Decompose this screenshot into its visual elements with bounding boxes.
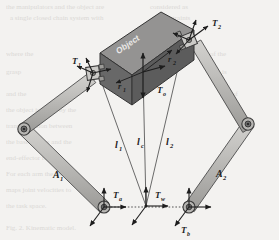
center-world-frame-axes: [132, 187, 168, 225]
svg-text:2: 2: [169, 142, 174, 149]
svg-text:o: o: [163, 91, 166, 97]
svg-text:1: 1: [78, 62, 81, 68]
svg-text:Fig. 2. Kinematic model.: Fig. 2. Kinematic model.: [6, 224, 76, 232]
right-elbow-center: [247, 123, 249, 125]
svg-text:the task space.: the task space.: [6, 202, 47, 210]
label-right-endeffector-frame: T 2: [212, 18, 221, 30]
left-gripper-finger-lower: [99, 76, 105, 81]
label-distance-center: l c: [137, 136, 144, 149]
svg-text:1: 1: [123, 87, 126, 93]
svg-text:the manipulators and the objec: the manipulators and the object are: [6, 3, 104, 11]
label-distance-right: l 2: [166, 136, 174, 149]
svg-text:grasp: grasp: [6, 68, 22, 76]
diagram-canvas: the manipulators and the object are cons…: [0, 0, 279, 240]
svg-text:w: w: [161, 196, 166, 202]
svg-text:A: A: [215, 168, 223, 179]
svg-text:l: l: [137, 136, 140, 147]
svg-text:1: 1: [60, 175, 63, 182]
right-arm: [185, 40, 254, 212]
svg-text:1: 1: [119, 145, 122, 152]
svg-text:and the: and the: [6, 90, 26, 98]
svg-text:b: b: [187, 231, 190, 237]
label-distance-left: l 1: [115, 139, 122, 152]
svg-text:a single closed chain system w: a single closed chain system with: [10, 14, 104, 22]
right-lower-link: [185, 120, 253, 211]
svg-text:where the: where the: [6, 50, 33, 58]
svg-text:2: 2: [217, 24, 221, 30]
label-left-endeffector-frame: T 1: [72, 56, 81, 68]
svg-text:2: 2: [222, 174, 227, 181]
left-gripper-finger-upper: [99, 64, 105, 69]
object-box: Object: [100, 12, 194, 105]
label-object-frame: T o: [157, 85, 166, 97]
svg-text:considered as: considered as: [150, 3, 188, 11]
svg-text:A: A: [52, 169, 60, 180]
svg-text:a: a: [119, 196, 122, 202]
left-elbow-center: [23, 128, 25, 130]
svg-text:is: is: [222, 68, 227, 76]
svg-text:l: l: [115, 139, 118, 150]
svg-text:of the: of the: [210, 50, 226, 58]
robot-grasp-diagram: the manipulators and the object are cons…: [0, 0, 279, 240]
svg-text:maps joint velocities to: maps joint velocities to: [6, 186, 72, 194]
svg-text:l: l: [166, 136, 169, 147]
label-right-base-frame: T b: [181, 225, 190, 237]
svg-text:2: 2: [172, 60, 176, 66]
label-center-world-frame: T w: [155, 190, 166, 202]
svg-text:c: c: [141, 142, 144, 149]
label-left-base-frame: T a: [113, 190, 122, 202]
